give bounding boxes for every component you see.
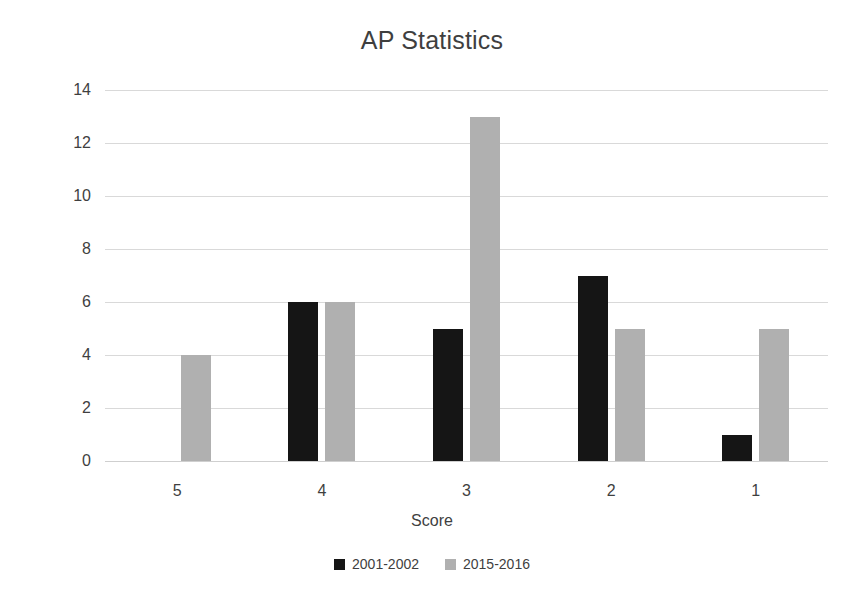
bar (433, 329, 463, 462)
y-axis-tick-label: 12 (73, 134, 91, 152)
bar (722, 435, 752, 462)
legend-swatch-icon (334, 559, 345, 570)
bar-group (578, 90, 645, 461)
y-axis-tick-label: 8 (82, 240, 91, 258)
gridline (105, 461, 828, 462)
bar (470, 117, 500, 462)
legend-swatch-icon (445, 559, 456, 570)
x-axis-tick-label: 4 (262, 482, 382, 500)
legend-entry[interactable]: 2001-2002 (334, 556, 419, 572)
bar-group (722, 90, 789, 461)
y-axis-tick-label: 10 (73, 187, 91, 205)
plot-area: 14121086420 (105, 90, 828, 461)
x-axis-title: Score (0, 512, 864, 530)
y-axis-tick-label: 2 (82, 399, 91, 417)
y-axis-tick-label: 4 (82, 346, 91, 364)
legend-label: 2001-2002 (352, 556, 419, 572)
bar (181, 355, 211, 461)
y-axis-tick-label: 6 (82, 293, 91, 311)
bar-group (288, 90, 355, 461)
bar (615, 329, 645, 462)
legend-label: 2015-2016 (463, 556, 530, 572)
chart-title: AP Statistics (0, 26, 864, 55)
chart-container: AP Statistics Number of students 1412108… (0, 0, 864, 610)
chart-legend: 2001-20022015-2016 (0, 556, 864, 572)
x-axis-tick-label: 5 (117, 482, 237, 500)
x-axis-tick-label: 1 (696, 482, 816, 500)
bar-group (433, 90, 500, 461)
x-axis-tick-label: 2 (551, 482, 671, 500)
bar (759, 329, 789, 462)
x-axis-tick-label: 3 (407, 482, 527, 500)
y-axis-tick-label: 0 (82, 452, 91, 470)
y-axis-tick-label: 14 (73, 81, 91, 99)
bar (325, 302, 355, 461)
bar (578, 276, 608, 462)
legend-entry[interactable]: 2015-2016 (445, 556, 530, 572)
bar-group (144, 90, 211, 461)
bar (288, 302, 318, 461)
